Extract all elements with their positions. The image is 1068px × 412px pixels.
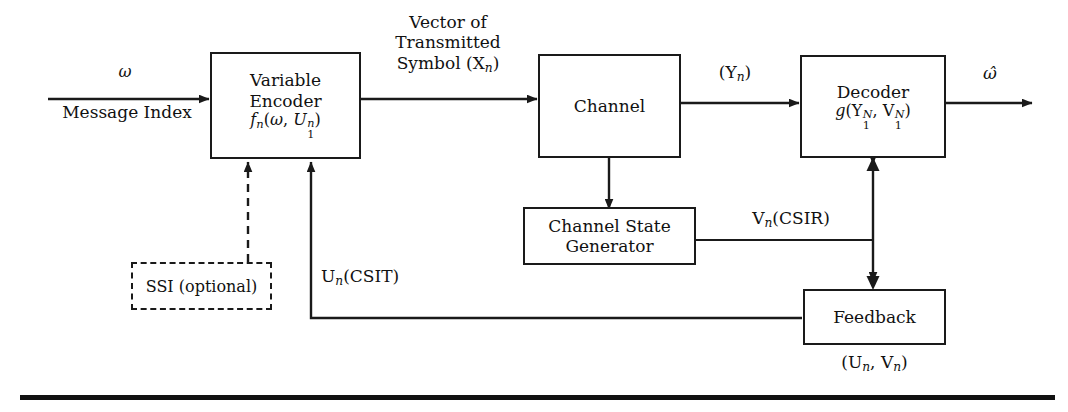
- csit-paren: (CSIT): [343, 266, 399, 286]
- page-bottom-rule: [20, 395, 1055, 400]
- decoder-function: g(YN1, VN1): [835, 102, 911, 132]
- transmitted-line-3: Symbol (Xn): [368, 53, 528, 76]
- transmitted-line-1: Vector of: [368, 12, 528, 32]
- channel-label: Channel: [574, 96, 646, 116]
- channel-out-sub: n: [737, 70, 745, 84]
- feedback-pair-open: (U: [841, 352, 862, 372]
- encoder-fn-u-sub: 1: [307, 130, 314, 141]
- encoder-line-2: Encoder: [249, 91, 321, 111]
- decoder-comma: ,: [873, 101, 883, 120]
- decoder-v: V: [883, 101, 895, 120]
- output-omega-hat-symbol: ω̂: [983, 63, 997, 83]
- label-csir: Vn(CSIR): [721, 208, 861, 231]
- label-feedback-pair: (Un, Vn): [803, 352, 946, 375]
- state-generator-line-1: Channel State: [548, 216, 670, 236]
- csir-main: V: [752, 208, 764, 228]
- decoder-y-indices: N1: [863, 110, 873, 132]
- label-csit: Un(CSIT): [321, 266, 461, 289]
- figure-canvas: Variable Encoder fn(ω, Un1) Channel Deco…: [0, 0, 1068, 412]
- encoder-fn-omega: ω: [270, 110, 283, 129]
- label-input-omega: ω: [95, 62, 155, 81]
- label-message-index: Message Index: [47, 102, 207, 122]
- decoder-g: g: [835, 101, 845, 120]
- arrowhead-down-to-feedback: [867, 276, 880, 290]
- feedback-pair-sub-2: n: [893, 360, 901, 374]
- encoder-line-1: Variable: [250, 70, 321, 90]
- block-decoder[interactable]: Decoder g(YN1, VN1): [800, 55, 946, 158]
- encoder-fn-close: ): [314, 110, 320, 129]
- feedback-pair-mid: , V: [870, 352, 893, 372]
- csit-main: U: [321, 266, 335, 286]
- feedback-pair-sub-1: n: [862, 360, 870, 374]
- label-channel-output: (Yn): [700, 62, 770, 85]
- decoder-v-sub: 1: [895, 121, 905, 132]
- block-variable-encoder[interactable]: Variable Encoder fn(ω, Un1): [210, 52, 361, 159]
- transmitted-symbol-sub: n: [485, 61, 493, 75]
- transmitted-symbol-open: Symbol (X: [397, 53, 485, 73]
- decoder-line-1: Decoder: [837, 82, 910, 102]
- channel-out-close: ): [745, 62, 752, 82]
- transmitted-symbol-close: ): [493, 53, 500, 73]
- block-feedback[interactable]: Feedback: [803, 289, 946, 345]
- feedback-pair-close: ): [901, 352, 908, 372]
- message-index-text: Message Index: [62, 102, 192, 122]
- ssi-label: SSI (optional): [146, 277, 258, 296]
- arrowhead-up-to-decoder: [867, 157, 880, 171]
- feedback-label: Feedback: [833, 307, 916, 327]
- block-channel[interactable]: Channel: [538, 54, 681, 158]
- state-generator-line-2: Generator: [565, 236, 653, 256]
- transmitted-line-2: Transmitted: [368, 32, 528, 52]
- csir-paren: (CSIR): [772, 208, 829, 228]
- label-transmitted-symbol: Vector of Transmitted Symbol (Xn): [368, 12, 528, 76]
- decoder-y-sub: 1: [863, 121, 873, 132]
- encoder-function: fn(ω, Un1): [250, 111, 320, 141]
- label-output-omega-hat: ω̂: [960, 63, 1020, 83]
- input-omega-symbol: ω: [118, 62, 131, 81]
- encoder-fn-sub: n: [256, 117, 263, 131]
- encoder-fn-u: U: [293, 110, 306, 129]
- block-ssi-optional[interactable]: SSI (optional): [131, 262, 272, 310]
- block-channel-state-generator[interactable]: Channel State Generator: [523, 207, 696, 265]
- decoder-close: ): [905, 101, 911, 120]
- decoder-v-indices: N1: [895, 110, 905, 132]
- channel-out-open: (Y: [719, 62, 737, 82]
- decoder-y: Y: [852, 101, 863, 120]
- encoder-fn-comma: ,: [283, 110, 293, 129]
